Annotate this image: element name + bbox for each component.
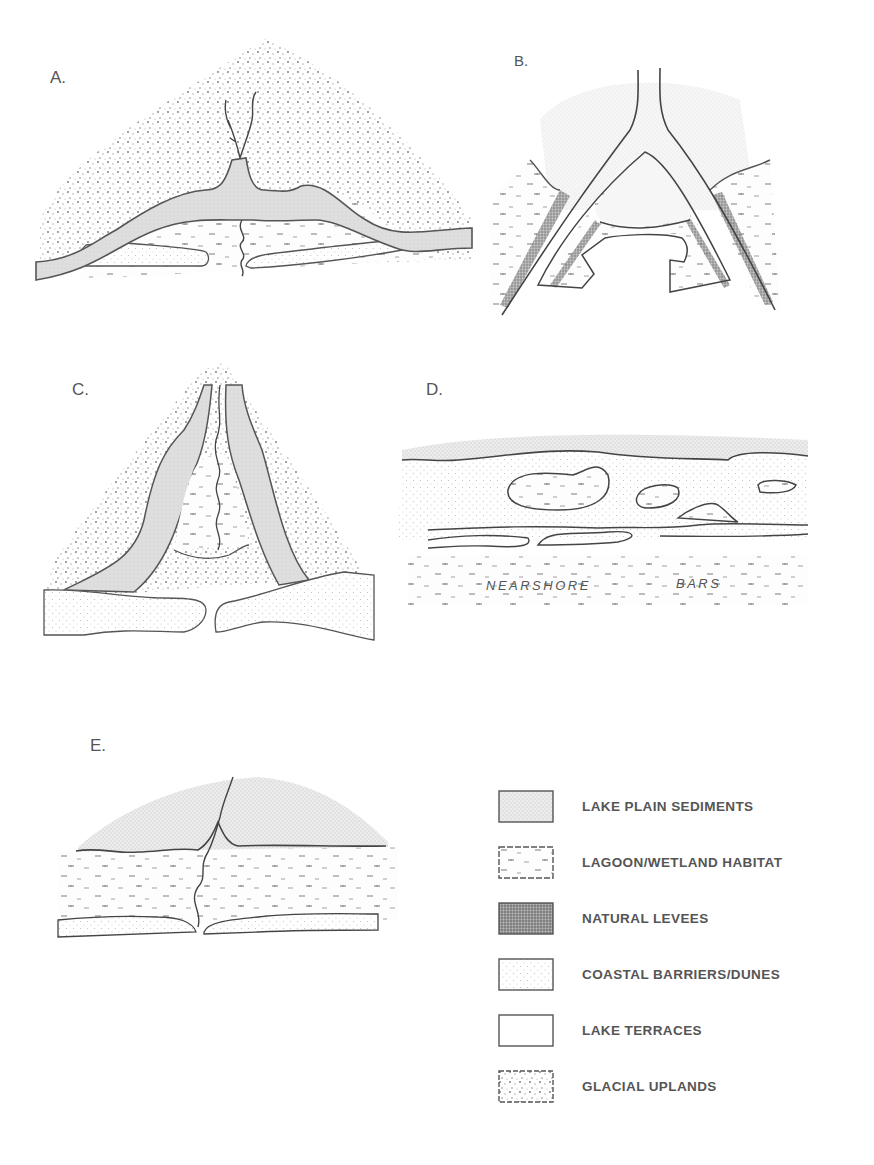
legend-label: LAKE PLAIN SEDIMENTS [582, 799, 754, 814]
bars-label: BARS [676, 576, 721, 591]
lagoon-wetland-swatch-icon [498, 846, 554, 879]
legend-item-lagoon-wetland-habitat: LAGOON/WETLAND HABITAT [498, 846, 858, 882]
legend-label: NATURAL LEVEES [582, 911, 709, 926]
panel-d-diagram: NEARSHORE BARS [398, 430, 818, 610]
legend-item-lake-terraces: LAKE TERRACES [498, 1014, 858, 1050]
panel-d-label: D. [426, 380, 443, 400]
lake-plain-sediments-swatch-icon [498, 790, 554, 823]
legend-item-natural-levees: NATURAL LEVEES [498, 902, 858, 938]
legend-item-coastal-barriers-dunes: COASTAL BARRIERS/DUNES [498, 958, 858, 994]
legend-item-glacial-uplands: GLACIAL UPLANDS [498, 1070, 858, 1106]
lake-terraces-swatch-icon [498, 1014, 554, 1047]
panel-a-diagram [36, 30, 476, 290]
natural-levees-swatch-icon [498, 902, 554, 935]
legend-label: LAKE TERRACES [582, 1023, 702, 1038]
glacial-uplands-swatch-icon [498, 1070, 554, 1103]
panel-b-diagram [490, 60, 790, 320]
panel-c-diagram [44, 360, 384, 640]
nearshore-label: NEARSHORE [486, 578, 591, 593]
panel-e-diagram [58, 752, 398, 937]
legend-label: LAGOON/WETLAND HABITAT [582, 855, 782, 870]
legend-label: COASTAL BARRIERS/DUNES [582, 967, 780, 982]
legend-label: GLACIAL UPLANDS [582, 1079, 717, 1094]
coastal-barriers-swatch-icon [498, 958, 554, 991]
legend-item-lake-plain-sediments: LAKE PLAIN SEDIMENTS [498, 790, 858, 826]
